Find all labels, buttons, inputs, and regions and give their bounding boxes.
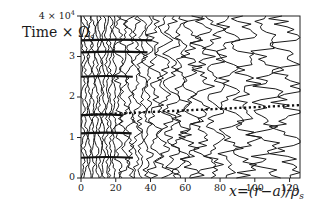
x-tick-label: 120 [275, 182, 305, 193]
x-tick-label: 40 [136, 182, 166, 193]
x-tick-label: 100 [240, 182, 270, 193]
y-tick-label: 2 [45, 90, 75, 101]
x-tick-label: 0 [66, 182, 96, 193]
x-tick-label: 20 [101, 182, 131, 193]
x-tick-label: 60 [170, 182, 200, 193]
y-tick-label: 0 [45, 171, 75, 182]
y-axis-label-text: Time × Ω [22, 24, 90, 40]
contour-line [203, 16, 227, 178]
contour-line [171, 16, 190, 178]
contour-line [163, 16, 181, 178]
y-tick-label: 4 × 104 [25, 9, 75, 21]
y-tick-exponent: 4 [71, 9, 75, 17]
burst-band [81, 52, 147, 53]
x-tick-label: 80 [205, 182, 235, 193]
y-tick-label: 3 [45, 50, 75, 61]
contour-figure: Time × Ωs x=(r−a)/ρs 0204060801001200123… [0, 0, 314, 221]
y-axis-label: Time × Ωs [22, 24, 94, 42]
y-axis-label-subscript: s [90, 32, 95, 42]
contour-line [269, 16, 300, 178]
contour-line [231, 16, 262, 178]
burst-band [81, 157, 133, 158]
y-tick-label: 1 [45, 131, 75, 142]
contour-line [155, 16, 173, 178]
burst-band [81, 76, 133, 77]
burst-band [81, 133, 132, 134]
